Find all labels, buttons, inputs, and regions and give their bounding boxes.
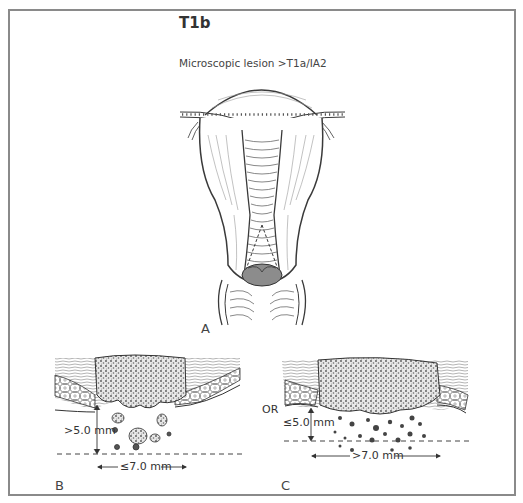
panel-label-a: A [201, 321, 210, 336]
panel-label-b: B [55, 478, 64, 493]
panel-b-width-label: ≤7.0 mm [120, 460, 172, 473]
panel-b-depth-label: >5.0 mm [64, 424, 116, 437]
panel-c-width-label: >7.0 mm [352, 449, 404, 462]
tumor-mass-c [318, 358, 440, 414]
panel-b-diagram [55, 355, 242, 470]
panel-c-depth-label: ≤5.0 mm [283, 416, 335, 429]
lesion-shading [242, 264, 282, 286]
or-connector: OR [262, 403, 278, 416]
tumor-mass-b [95, 355, 186, 408]
uterus-diagram [180, 90, 345, 325]
panel-label-c: C [281, 478, 290, 493]
panel-c-diagram [282, 358, 472, 459]
